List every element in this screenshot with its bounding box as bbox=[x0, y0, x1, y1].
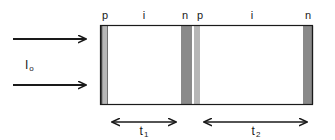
cell-2-i-layer bbox=[200, 26, 303, 104]
incident-light-label: Io bbox=[25, 59, 34, 71]
thickness-label-t2: t2 bbox=[252, 125, 261, 137]
layer-label-n1: n bbox=[182, 10, 188, 21]
t1-subscript: 1 bbox=[143, 130, 148, 139]
layer-label-p1: p bbox=[102, 10, 108, 21]
layer-label-i2: i bbox=[251, 10, 253, 21]
device-body bbox=[100, 25, 313, 105]
layer-label-n2: n bbox=[305, 10, 311, 21]
layer-label-p2: p bbox=[197, 10, 203, 21]
diagram-svg bbox=[0, 0, 335, 140]
cell-junction-gap bbox=[192, 26, 194, 104]
incident-light-subscript: o bbox=[28, 64, 33, 73]
incident-light-arrows bbox=[13, 39, 86, 85]
cell-1-n-layer bbox=[181, 26, 192, 104]
cell-2-n-layer bbox=[303, 26, 313, 104]
layer-label-i1: i bbox=[143, 10, 145, 21]
t2-subscript: 2 bbox=[255, 130, 260, 139]
cell-1-i-layer bbox=[108, 26, 181, 104]
figure-canvas: p i n p i n Io t1 t2 bbox=[0, 0, 335, 140]
cell-2-p-layer bbox=[194, 26, 200, 104]
thickness-label-t1: t1 bbox=[140, 125, 149, 137]
